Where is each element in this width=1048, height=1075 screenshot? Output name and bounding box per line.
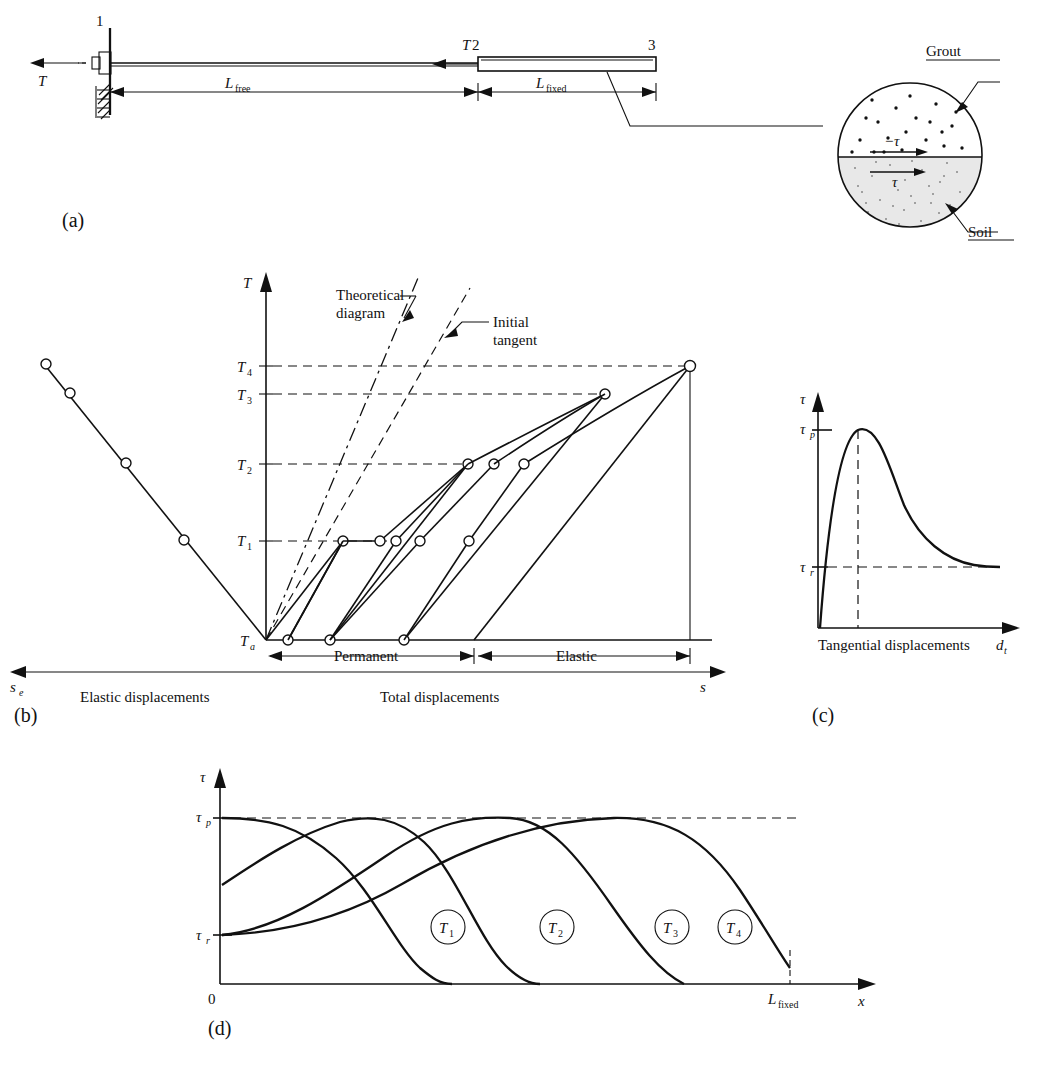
marker-elastic-T4 — [41, 359, 51, 369]
annotation-initial-tangent-1: Initial — [493, 314, 529, 330]
marker-T4-peak — [685, 361, 696, 372]
dim-label-free: L — [224, 75, 233, 91]
y-tick-T4: T 4 — [237, 359, 690, 378]
y-tick-label-T3: T — [237, 387, 247, 403]
figure-root: T T 1 2 3 L free L fixed — [0, 0, 1048, 1075]
cycle4-loading — [524, 366, 690, 464]
panel-c-label-tau-p: τ — [800, 421, 806, 437]
panel-d-label-T3-sub: 3 — [673, 928, 678, 939]
theoretical-diagram-line — [266, 278, 418, 640]
marker-elastic-T3 — [65, 388, 75, 398]
marker-env-mid1 — [415, 536, 425, 546]
marker-c2-mid — [375, 536, 385, 546]
panel-d-label-tau-r: τ — [196, 927, 202, 943]
panel-d-label-T1-base: T — [439, 920, 449, 936]
panel-d-label-T3-base: T — [663, 920, 673, 936]
cross-section-detail: −τ τ Grout Soil — [838, 43, 1014, 240]
soil-fill — [838, 157, 984, 229]
cycle3-reload — [330, 541, 396, 640]
load-arrow-inner — [432, 59, 478, 69]
y-tick-label-T2: T — [237, 457, 247, 473]
panel-d-label-T4: T 4 — [718, 910, 752, 944]
soil-label: Soil — [968, 224, 992, 240]
panel-d-label-T4-base: T — [726, 920, 736, 936]
panel-d-label-T4-sub: 4 — [736, 928, 741, 939]
cycle1-loading — [266, 541, 343, 640]
axis-T — [260, 272, 272, 640]
panel-c-caption: Tangential displacements — [818, 637, 970, 653]
annotation-initial-tangent-leader — [444, 322, 489, 338]
dim-line-free — [110, 83, 478, 101]
envelope-to-T3 — [494, 394, 605, 464]
panel-c-axis-label-dt: d — [996, 637, 1004, 653]
y-tick-label-T1-sub: 1 — [247, 541, 252, 552]
panel-d-label-tau-r-sub: r — [206, 935, 210, 946]
panel-d-label-T2: T 2 — [540, 910, 574, 944]
panel-d-label-tau-p: τ — [196, 809, 202, 825]
panel-d-label-T1: T 1 — [431, 910, 465, 944]
axis-s — [10, 666, 726, 678]
panel-label-c: (c) — [812, 704, 834, 727]
cycle3-loading — [468, 394, 605, 464]
panel-d: τ x τ p τ r 0 L fixed T — [196, 768, 876, 1040]
panel-c-curve — [820, 429, 1000, 628]
axis-label-T: T — [243, 275, 253, 291]
panel-d-curve-T1 — [222, 818, 452, 984]
fixed-length-bar — [478, 57, 656, 71]
dim-label-fixed-sub: fixed — [546, 83, 567, 94]
dim-line-fixed — [478, 83, 656, 101]
panel-d-label-T2-base: T — [548, 920, 558, 936]
panel-d-axis-y — [214, 768, 226, 984]
axis-label-se: s — [10, 679, 16, 695]
y-tick-label-T4: T — [237, 359, 247, 375]
panel-label-a: (a) — [62, 209, 84, 232]
y-tick-label-T2-sub: 2 — [247, 465, 252, 476]
y-tick-T3: T 3 — [237, 387, 605, 406]
grout-label: Grout — [926, 43, 962, 59]
marker-c4-mid2 — [519, 459, 529, 469]
panel-c-label-tau-r: τ — [800, 559, 806, 575]
elastic-displacement-line — [44, 364, 266, 640]
y-tick-label-T4-sub: 4 — [247, 367, 252, 378]
dim-label-fixed: L — [535, 75, 544, 91]
panel-d-curve-T2 — [222, 818, 540, 984]
marker-c4-mid1 — [464, 536, 474, 546]
panel-c-axis-x — [818, 622, 1020, 634]
dim-label-permanent: Permanent — [334, 648, 399, 664]
panel-c: τ d t τ p τ r Tangential displacements (… — [800, 391, 1020, 727]
panel-label-b: (b) — [14, 704, 37, 727]
detail-leader-line — [607, 72, 823, 126]
tau-label-negative: −τ — [884, 133, 900, 149]
panel-d-label-Lfixed: L — [767, 991, 776, 1007]
marker-elastic-T2 — [121, 458, 131, 468]
y-tick-label-T3-sub: 3 — [247, 395, 252, 406]
panel-c-label-tau-r-sub: r — [810, 567, 814, 578]
wall-hatching — [96, 84, 113, 119]
panel-d-label-T3: T 3 — [655, 910, 689, 944]
caption-total-displacements: Total displacements — [380, 689, 499, 705]
panel-d-curve-T4 — [222, 818, 790, 968]
y-tick-label-T1: T — [237, 533, 247, 549]
cycle2-unloading — [330, 464, 468, 640]
marker-c3-mid — [391, 536, 401, 546]
annotation-initial-tangent-2: tangent — [493, 332, 538, 348]
panel-d-label-Lfixed-sub: fixed — [778, 999, 799, 1010]
panel-a: T T 1 2 3 L free L fixed — [30, 13, 1014, 240]
panel-d-axis-label-x: x — [857, 993, 865, 1009]
load-label-inner: T — [462, 37, 472, 53]
panel-d-axis-x — [220, 978, 876, 990]
grout-aggregate — [850, 94, 963, 153]
load-arrow-left — [30, 58, 86, 68]
origin-label-Ta-sub: a — [250, 641, 255, 652]
tau-arrow-up — [870, 148, 928, 156]
node-label-3: 3 — [648, 37, 656, 53]
panel-b: T s e s T a T 1 T 2 T 3 — [10, 272, 726, 727]
marker-elastic-T1 — [179, 535, 189, 545]
axis-label-se-sub: e — [19, 687, 24, 698]
node-label-1: 1 — [96, 13, 104, 29]
annotation-theoretical-1: Theoretical — [336, 287, 404, 303]
origin-label-Ta: T — [240, 633, 250, 649]
node-label-2: 2 — [472, 37, 480, 53]
y-tick-T2: T 2 — [237, 457, 468, 476]
panel-label-d: (d) — [208, 1017, 231, 1040]
